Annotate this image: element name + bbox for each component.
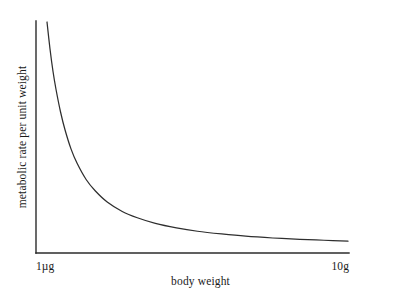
x-axis-title: body weight [0,275,401,287]
x-axis-tick-label-max: 10g [299,261,349,273]
y-axis-title-container: metabolic rate per unit weight [14,21,30,253]
x-axis-tick-label-min: 1µg [36,261,54,273]
metabolic-rate-chart: 1µg 10g body weight metabolic rate per u… [0,0,401,304]
y-axis-title: metabolic rate per unit weight [16,66,28,208]
data-curve-metabolic-rate [47,22,348,241]
chart-plot-area [0,0,401,304]
